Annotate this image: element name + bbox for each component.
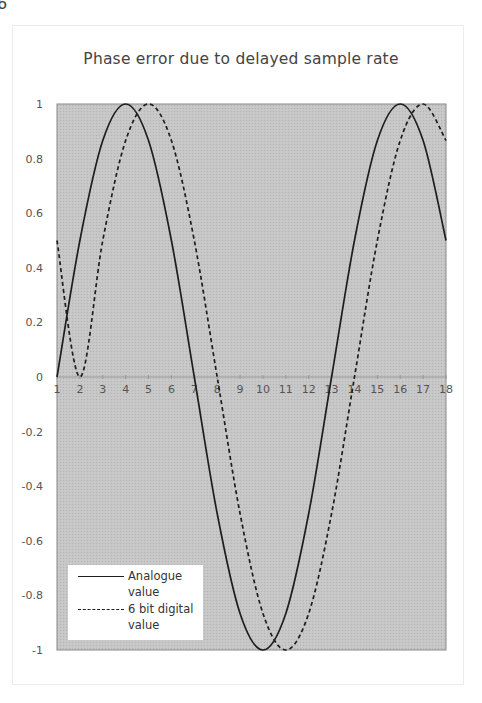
x-tick-label: 12: [302, 383, 316, 396]
x-tick-label: 6: [168, 383, 175, 396]
x-tick-label: 14: [347, 383, 361, 396]
legend-label-line1: 6 bit digital: [128, 601, 193, 617]
x-tick-label: 1: [54, 383, 61, 396]
y-tick-label: 0.2: [26, 316, 44, 329]
legend-label-line1: Analogue: [128, 568, 182, 584]
y-tick-label: -0.2: [22, 426, 43, 439]
y-tick-label: -0.4: [22, 480, 43, 493]
dashed-line-swatch-icon: [78, 609, 124, 610]
solid-line-swatch-icon: [78, 576, 124, 577]
y-tick-label: -0.6: [22, 535, 43, 548]
y-tick-label: 0: [36, 371, 43, 384]
x-tick-label: 3: [99, 383, 106, 396]
y-tick-label: 0.6: [26, 207, 44, 220]
x-tick-label: 9: [237, 383, 244, 396]
legend-label-line2: value: [128, 617, 193, 633]
chart-legend: Analogue value 6 bit digital value: [68, 565, 203, 640]
x-tick-label: 5: [145, 383, 152, 396]
x-tick-label: 11: [279, 383, 293, 396]
x-tick-label: 13: [325, 383, 339, 396]
y-tick-label: -0.8: [22, 589, 43, 602]
y-tick-label: 0.8: [26, 153, 44, 166]
x-tick-label: 15: [370, 383, 384, 396]
legend-label-line2: value: [128, 584, 182, 600]
y-tick-label: 0.4: [26, 262, 44, 275]
x-tick-label: 16: [393, 383, 407, 396]
y-tick-label: 1: [36, 98, 43, 111]
x-tick-label: 10: [256, 383, 270, 396]
legend-label-analogue: Analogue value: [128, 568, 182, 600]
x-tick-label: 17: [416, 383, 430, 396]
y-tick-label: -1: [32, 644, 43, 657]
legend-label-digital: 6 bit digital value: [128, 601, 193, 633]
x-tick-label: 2: [76, 383, 83, 396]
x-tick-label: 4: [122, 383, 129, 396]
x-tick-label: 18: [439, 383, 453, 396]
